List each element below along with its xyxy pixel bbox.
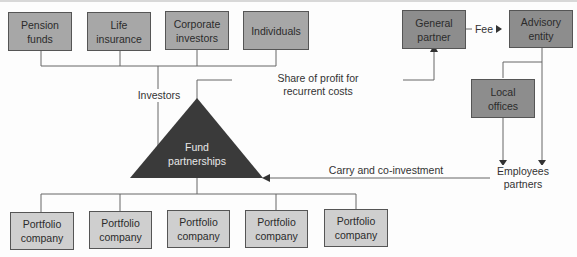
local-offices-box: Local offices [471, 79, 535, 118]
portfolio-label: Portfolio company [21, 217, 64, 245]
investor-label: Pension funds [21, 18, 59, 46]
investor-box-individuals: Individuals [243, 11, 309, 50]
portfolio-company-box: Portfolio company [10, 212, 74, 250]
fund-structure-diagram: Pension funds Life insurance Corporate i… [0, 0, 577, 257]
portfolio-company-box: Portfolio company [89, 211, 152, 249]
portfolio-company-box: Portfolio company [167, 210, 230, 248]
portfolio-label: Portfolio company [255, 215, 298, 243]
investor-box-life-insurance: Life insurance [87, 12, 151, 51]
investor-box-pension-funds: Pension funds [8, 12, 72, 51]
investor-label: Life insurance [96, 18, 142, 46]
investor-label: Corporate investors [174, 17, 221, 45]
local-offices-label: Local offices [488, 85, 518, 113]
portfolio-company-box: Portfolio company [324, 209, 388, 247]
portfolio-label: Portfolio company [99, 216, 142, 244]
investor-label: Individuals [251, 24, 301, 38]
general-partner-label: General partner [415, 16, 452, 44]
investor-box-corporate-investors: Corporate investors [165, 11, 229, 50]
advisory-entity-box: Advisory entity [509, 10, 573, 48]
carry-edge-label: Carry and co-investment [325, 164, 447, 177]
portfolio-label: Portfolio company [335, 214, 378, 242]
employees-partners-label: Employees partners [490, 165, 556, 191]
general-partner-box: General partner [402, 10, 466, 49]
fee-edge-label: Fee [472, 23, 496, 36]
fund-partnerships-label: Fund partnerships [157, 140, 237, 168]
investors-edge-label: Investors [136, 89, 182, 102]
profit-edge-label: Share of profit for recurrent costs [234, 72, 402, 98]
portfolio-company-box: Portfolio company [245, 210, 308, 248]
advisory-entity-label: Advisory entity [521, 15, 561, 43]
portfolio-label: Portfolio company [177, 215, 220, 243]
